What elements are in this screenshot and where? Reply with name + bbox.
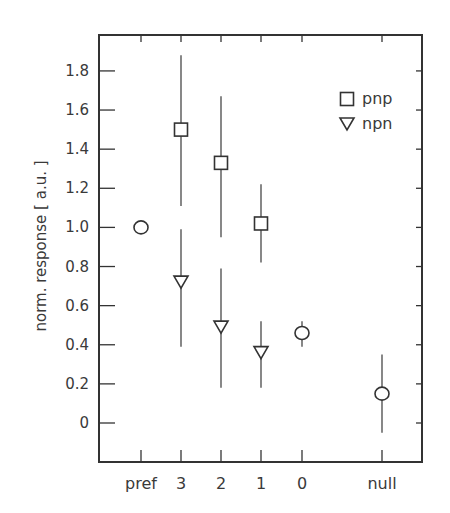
square-marker-icon [341, 93, 354, 106]
y-tick-label: 1.2 [65, 179, 89, 197]
triangle-down-marker-icon [174, 276, 188, 288]
y-tick-label: 0.8 [65, 258, 89, 276]
legend-label: npn [362, 114, 392, 133]
y-axis-label: norm. response [ a.u. ] [32, 160, 50, 331]
x-axis-ticks: pref3210null [125, 35, 397, 493]
x-tick-label: 0 [297, 474, 307, 493]
circle-marker-icon [295, 327, 309, 340]
y-tick-label: 1.0 [65, 218, 89, 236]
series-pnp [175, 55, 268, 262]
x-tick-label: null [367, 474, 396, 493]
x-tick-label: pref [125, 474, 157, 493]
circle-marker-icon [375, 387, 389, 400]
x-tick-label: 3 [176, 474, 186, 493]
square-marker-icon [255, 217, 268, 230]
y-tick-label: 0.6 [65, 297, 89, 315]
square-marker-icon [215, 156, 228, 169]
triangle-down-marker-icon [214, 321, 228, 333]
y-tick-label: 0.2 [65, 375, 89, 393]
x-tick-label: 2 [216, 474, 226, 493]
y-tick-label: 1.4 [65, 140, 89, 158]
circle-marker-icon [134, 221, 148, 234]
y-tick-label: 0.4 [65, 336, 89, 354]
y-tick-label: 1.8 [65, 62, 89, 80]
legend: pnpnpn [340, 89, 392, 133]
legend-label: pnp [362, 89, 392, 108]
square-marker-icon [175, 123, 188, 136]
y-tick-label: 1.6 [65, 101, 89, 119]
x-tick-label: 1 [256, 474, 266, 493]
triangle-down-marker-icon [340, 118, 354, 130]
data-points [134, 55, 389, 433]
chart: 00.20.40.60.81.01.21.41.61.8 pref3210nul… [0, 0, 450, 513]
y-tick-label: 0 [79, 414, 89, 432]
series-npn [174, 229, 268, 387]
triangle-down-marker-icon [254, 347, 268, 359]
